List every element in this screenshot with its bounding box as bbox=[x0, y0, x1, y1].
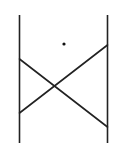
background bbox=[0, 0, 120, 143]
dot-marker bbox=[62, 42, 65, 45]
cross-brace-diagram bbox=[0, 0, 120, 143]
